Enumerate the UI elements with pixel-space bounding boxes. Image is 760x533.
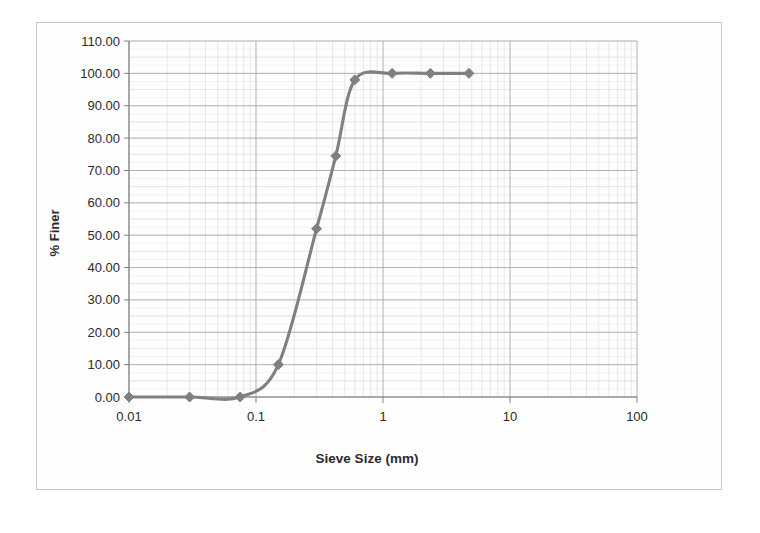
y-tick-label: 20.00 [87, 325, 120, 340]
x-tick-label: 0.01 [116, 409, 141, 424]
y-tick-label: 70.00 [87, 163, 120, 178]
y-tick-label: 30.00 [87, 292, 120, 307]
x-axis-label: Sieve Size (mm) [316, 451, 419, 466]
x-tick-label: 10 [503, 409, 517, 424]
data-point-marker [312, 224, 322, 234]
grain-size-distribution-chart: 0.0010.0020.0030.0040.0050.0060.0070.008… [37, 23, 723, 491]
chart-figure: 0.0010.0020.0030.0040.0050.0060.0070.008… [36, 22, 722, 490]
y-tick-label: 40.00 [87, 260, 120, 275]
data-point-marker [387, 68, 397, 78]
y-tick-label: 80.00 [87, 131, 120, 146]
data-point-marker [273, 360, 283, 370]
x-tick-label: 100 [626, 409, 648, 424]
y-tick-label: 110.00 [81, 34, 120, 49]
data-point-marker [185, 392, 195, 402]
y-tick-label: 100.00 [80, 66, 120, 81]
y-tick-label: 0.00 [95, 390, 120, 405]
chart-plot-area: 0.0010.0020.0030.0040.0050.0060.0070.008… [37, 23, 723, 491]
y-tick-label: 10.00 [87, 357, 120, 372]
data-point-marker [425, 68, 435, 78]
data-point-marker [124, 392, 134, 402]
y-tick-label: 60.00 [87, 195, 120, 210]
y-tick-label: 50.00 [87, 228, 120, 243]
x-axis-tick-labels: 0.010.1110100 [116, 409, 648, 424]
data-point-marker [464, 68, 474, 78]
x-tick-label: 0.1 [247, 409, 265, 424]
y-axis-tick-labels: 0.0010.0020.0030.0040.0050.0060.0070.008… [80, 34, 120, 405]
y-tick-label: 90.00 [87, 98, 120, 113]
y-axis-label: % Finer [47, 210, 62, 257]
x-tick-label: 1 [379, 409, 386, 424]
